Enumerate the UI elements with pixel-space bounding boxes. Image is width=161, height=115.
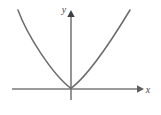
x-axis-arrow-icon xyxy=(137,85,144,93)
graph-canvas: x y xyxy=(0,0,161,115)
parabola-curve xyxy=(18,10,130,88)
y-axis-label: y xyxy=(61,4,67,15)
x-axis-label: x xyxy=(145,84,151,95)
parabola-figure: x y xyxy=(0,0,161,115)
y-axis-arrow-icon xyxy=(67,10,74,17)
